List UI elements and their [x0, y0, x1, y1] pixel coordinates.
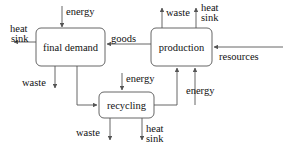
flow-label-heat-sink-production-line2: sink: [201, 13, 219, 24]
flow-label-energy-recycling: energy: [126, 74, 154, 85]
flow-label-waste-final-demand: waste: [22, 78, 46, 89]
node-label-recycling: recycling: [99, 92, 154, 118]
arrow-recycling-to-production: [154, 68, 177, 105]
flow-label-goods: goods: [111, 34, 136, 45]
flow-label-heat-sink-recycling-line2: sink: [146, 134, 164, 145]
flow-label-waste-production: waste: [166, 8, 190, 19]
flow-label-waste-recycling: waste: [76, 128, 100, 139]
node-label-final-demand: final demand: [36, 28, 105, 66]
flow-diagram: final demand production recycling energy…: [0, 0, 283, 149]
node-label-production: production: [151, 28, 212, 66]
flow-label-energy-production: energy: [186, 86, 214, 97]
arrow-final-demand-to-recycling: [77, 66, 97, 105]
flow-label-heat-sink-left-line2: sink: [11, 34, 29, 45]
flow-label-energy-final-demand: energy: [66, 7, 94, 18]
flow-label-resources: resources: [219, 52, 259, 63]
